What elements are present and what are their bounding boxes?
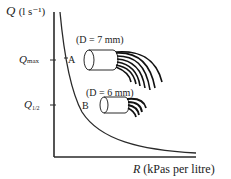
tick-qmax-subscript: max	[27, 57, 39, 65]
x-axis-unit: (kPas per litre)	[143, 162, 214, 176]
nozzle-6mm-icon	[100, 97, 146, 117]
y-axis-symbol: Q	[6, 3, 15, 18]
y-axis-label: Q (l s⁻¹)	[6, 4, 45, 17]
nozzle-7mm-text: (D = 7 mm)	[76, 34, 124, 45]
tick-label-qmax: Qmax	[19, 54, 39, 65]
y-axis-unit: (l s⁻¹)	[19, 5, 46, 17]
x-axis-label: R (kPas per litre)	[133, 163, 215, 175]
nozzle-6mm-text: (D = 6 mm)	[86, 87, 134, 98]
point-label-a: A	[68, 55, 75, 65]
nozzle-6mm-label: (D = 6 mm)	[86, 88, 134, 98]
tick-qhalf-subscript: 1/2	[32, 105, 40, 111]
tick-qhalf-symbol: Q	[24, 98, 32, 110]
nozzle-7mm-icon	[84, 50, 162, 90]
tick-qmax-symbol: Q	[19, 53, 27, 65]
tick-label-qhalf: Q1/2	[24, 99, 40, 111]
x-axis-symbol: R	[133, 162, 140, 176]
nozzle-7mm-label: (D = 7 mm)	[76, 35, 124, 45]
point-label-b: B	[82, 101, 89, 111]
